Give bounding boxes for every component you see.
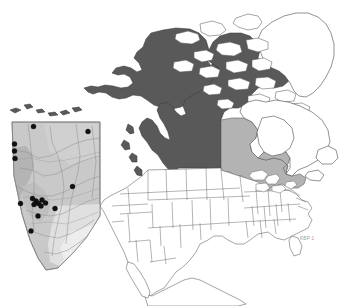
nova-scotia-outline (305, 170, 324, 181)
occurrence-dot (39, 204, 44, 209)
figure-credit: KBP 1 (300, 236, 315, 241)
occurrence-dot (70, 184, 75, 189)
occurrence-dot (86, 129, 91, 134)
occurrence-dot (12, 149, 17, 154)
occurrence-dot (18, 201, 23, 206)
range-aleutians (10, 104, 82, 116)
occurrence-dot (53, 206, 58, 211)
occurrence-dot (29, 229, 34, 234)
alberta-inset-group (12, 122, 100, 270)
figure-root: KBP 1 (0, 0, 356, 306)
occurrence-dot (32, 202, 37, 207)
occurrence-dot (43, 201, 48, 206)
occurrence-dot (36, 214, 41, 219)
occurrence-dot (31, 124, 36, 129)
map-svg: KBP 1 (0, 0, 356, 306)
occurrence-dot (12, 142, 17, 147)
occurrence-dot (13, 156, 18, 161)
